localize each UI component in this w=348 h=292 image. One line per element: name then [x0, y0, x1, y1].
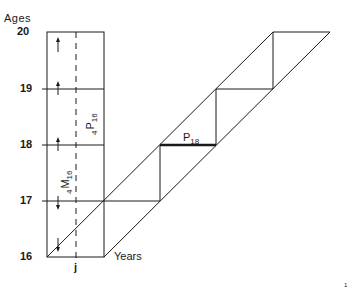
page-mark: 1 — [344, 282, 347, 288]
age-tick-20: 20 — [17, 25, 29, 37]
p16-label: 4P16 — [80, 113, 98, 135]
age-tick-16: 16 — [20, 250, 32, 262]
age-tick-18: 18 — [20, 138, 32, 150]
y-axis-title: Ages — [4, 12, 31, 24]
arrow-up-icon — [56, 37, 60, 42]
x-axis-title: Years — [114, 250, 142, 262]
lexis-diagram — [0, 0, 348, 292]
age-tick-19: 19 — [20, 82, 32, 94]
age-tick-17: 17 — [20, 194, 32, 206]
year-j-label: j — [74, 261, 77, 273]
cohort-lower-diagonal — [104, 32, 330, 257]
m16-label: 4M16 — [55, 170, 73, 194]
p18-label: P18 — [183, 127, 199, 145]
